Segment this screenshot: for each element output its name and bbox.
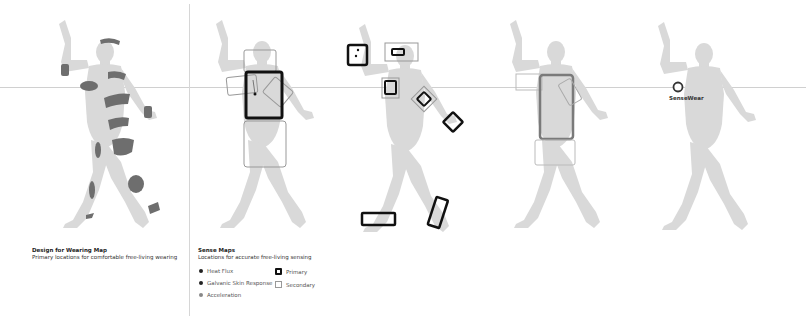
legend-heat-flux: Heat Flux <box>199 268 233 274</box>
legend-gsr: Galvanic Skin Response <box>199 280 272 286</box>
legend-label: Heat Flux <box>207 268 233 274</box>
wearing-map-caption: Design for Wearing Map Primary locations… <box>32 247 177 261</box>
legend-label: Acceleration <box>207 292 241 298</box>
dark-dot-icon <box>199 281 203 285</box>
sense-maps-title: Sense Maps <box>198 247 312 254</box>
secondary-square-icon <box>275 281 282 288</box>
legend-primary: Primary <box>275 268 307 275</box>
sensewear-figure <box>658 22 756 230</box>
sensewear-label: SenseWear <box>669 95 704 101</box>
wearing-map-figure <box>59 20 160 228</box>
legend-secondary: Secondary <box>275 281 315 288</box>
legend-acceleration: Acceleration <box>199 292 241 298</box>
dark-dot-icon <box>199 269 203 273</box>
sense-map-armband-figure <box>510 20 608 228</box>
wearing-map-title: Design for Wearing Map <box>32 247 177 254</box>
wearing-map-subtitle: Primary locations for comfortable free-l… <box>32 254 177 261</box>
sense-map-torso-figure <box>216 20 314 228</box>
legend-label: Primary <box>286 269 307 275</box>
sense-maps-subtitle: Locations for accurate free-living sensi… <box>198 254 312 261</box>
sensewear-armband-icon <box>674 83 683 92</box>
sense-maps-caption: Sense Maps Locations for accurate free-l… <box>198 247 312 261</box>
light-dot-icon <box>199 293 203 297</box>
figures-canvas <box>0 0 806 323</box>
legend-label: Galvanic Skin Response <box>207 280 272 286</box>
sense-map-limbs-figure <box>348 24 463 232</box>
legend-label: Secondary <box>286 282 315 288</box>
primary-square-icon <box>275 268 282 275</box>
